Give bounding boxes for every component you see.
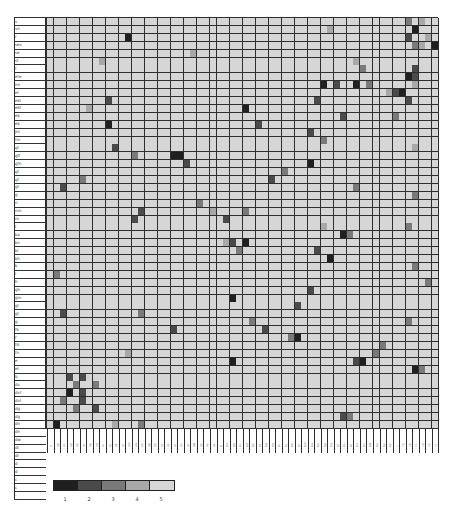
x-tick-line xyxy=(106,429,107,453)
x-tick-line xyxy=(334,429,335,453)
x-tick-line xyxy=(386,429,387,453)
row-label: l xyxy=(15,223,45,230)
heatmap-cell xyxy=(432,113,439,121)
x-tick-label: bm xyxy=(303,435,307,447)
x-tick-label: ag xyxy=(88,435,92,447)
x-tick-line xyxy=(184,429,185,453)
x-tick-line xyxy=(269,429,270,453)
heatmap-cell xyxy=(432,121,439,129)
row-label: ekl xyxy=(15,97,45,104)
row-label: r xyxy=(15,33,45,40)
x-tick-line xyxy=(217,429,218,453)
heatmap-cell xyxy=(432,350,439,358)
row-label: k xyxy=(15,262,45,269)
x-tick-label: cb xyxy=(408,435,412,447)
row-label: el xyxy=(15,365,45,372)
x-tick-label: br xyxy=(336,435,340,447)
x-tick-label: bj xyxy=(284,435,288,447)
x-tick-line xyxy=(419,429,420,453)
heatmap-cell xyxy=(432,50,439,58)
heatmap-cell xyxy=(432,287,439,295)
x-tick-label: be xyxy=(251,435,255,447)
x-tick-label: aq xyxy=(153,435,157,447)
row-label: t xyxy=(15,65,45,72)
x-tick-label: bo xyxy=(316,435,320,447)
x-tick-line xyxy=(86,429,87,453)
row-label: gh xyxy=(15,286,45,293)
heatmap-cell xyxy=(432,89,439,97)
heatmap-cell xyxy=(432,105,439,113)
row-label: dw xyxy=(15,436,45,443)
row-label: d xyxy=(15,460,45,467)
x-tick-label: bq xyxy=(329,435,333,447)
heatmap-cell xyxy=(432,271,439,279)
heatmap-cell xyxy=(432,358,439,366)
legend-label: 1 xyxy=(53,496,77,502)
row-label: - xyxy=(15,492,45,499)
x-tick-line xyxy=(373,429,374,453)
x-tick-line xyxy=(119,429,120,453)
heatmap-cell xyxy=(432,26,439,34)
x-tick-label: ac xyxy=(62,435,66,447)
heatmap-cell xyxy=(432,326,439,334)
x-tick-label: bc xyxy=(238,435,242,447)
row-label: dg xyxy=(15,405,45,412)
x-tick-line xyxy=(47,429,48,453)
row-label: mn xyxy=(15,207,45,214)
x-tick-label: at xyxy=(173,435,177,447)
x-tick-label: af xyxy=(82,435,86,447)
x-tick-label: ah xyxy=(95,435,99,447)
row-label: c xyxy=(15,476,45,483)
heatmap-cell xyxy=(432,137,439,145)
x-tick-label: as xyxy=(166,435,170,447)
x-tick-label: bx xyxy=(375,435,379,447)
heatmap-cell xyxy=(432,318,439,326)
heatmap-cell xyxy=(432,263,439,271)
heatmap-cell xyxy=(432,381,439,389)
x-tick-label: b xyxy=(219,435,223,447)
x-tick-label: ad xyxy=(69,435,73,447)
legend-labels: 12345 xyxy=(53,496,173,502)
legend-swatch xyxy=(126,481,150,490)
x-tick-line xyxy=(73,429,74,453)
heatmap-cell xyxy=(432,405,439,413)
x-tick-line xyxy=(132,429,133,453)
heatmap-cell xyxy=(432,81,439,89)
legend-swatch xyxy=(78,481,102,490)
x-tick-label: am xyxy=(127,435,131,447)
x-tick-line xyxy=(380,429,381,453)
row-label: gfl xyxy=(15,152,45,159)
x-tick-label: bb xyxy=(232,435,236,447)
row-label: gt xyxy=(15,183,45,190)
row-label: dn xyxy=(15,420,45,427)
row-label: sev xyxy=(15,41,45,48)
heatmap-cell xyxy=(432,208,439,216)
legend-label: 5 xyxy=(149,496,173,502)
x-tick-label: bl xyxy=(297,435,301,447)
x-tick-label: bi xyxy=(277,435,281,447)
x-tick-line xyxy=(223,429,224,453)
x-tick-label: ay xyxy=(205,435,209,447)
heatmap-cell xyxy=(432,374,439,382)
x-tick-line xyxy=(412,429,413,453)
row-label: fd xyxy=(15,341,45,348)
x-tick-label: bh xyxy=(271,435,275,447)
x-tick-line xyxy=(321,429,322,453)
x-tick-line xyxy=(256,429,257,453)
x-tick-label: bk xyxy=(290,435,294,447)
row-label: ka xyxy=(15,231,45,238)
x-tick-line xyxy=(171,429,172,453)
x-tick-label: ap xyxy=(147,435,151,447)
heatmap-cell xyxy=(432,342,439,350)
heatmap-cell xyxy=(432,397,439,405)
row-label: ete xyxy=(15,73,45,80)
heatmap-cell xyxy=(432,389,439,397)
x-tick-label: an xyxy=(134,435,138,447)
x-tick-line xyxy=(249,429,250,453)
x-tick-label: ai xyxy=(101,435,105,447)
legend-swatch xyxy=(54,481,78,490)
x-tick-line xyxy=(99,429,100,453)
heatmap-cell xyxy=(432,18,439,26)
x-tick-line xyxy=(236,429,237,453)
heatmap-cell xyxy=(432,58,439,66)
